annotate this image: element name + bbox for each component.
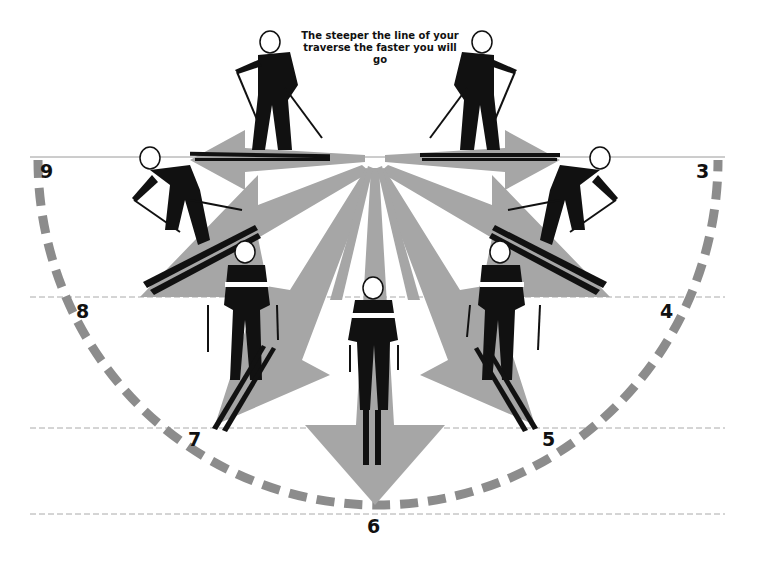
caption-line-2: traverse the faster you will go (300, 42, 460, 66)
position-label-7: 7 (188, 428, 201, 450)
position-label-8: 8 (76, 300, 89, 322)
traverse-diagram: The steeper the line of your traverse th… (0, 0, 760, 565)
position-label-4: 4 (660, 300, 673, 322)
position-label-3: 3 (696, 160, 709, 182)
position-label-5: 5 (542, 428, 555, 450)
position-label-6: 6 (367, 515, 380, 537)
caption-text: The steeper the line of your traverse th… (300, 30, 460, 66)
position-label-9: 9 (40, 160, 53, 182)
diagram-canvas (0, 0, 760, 565)
caption-line-1: The steeper the line of your (300, 30, 460, 42)
